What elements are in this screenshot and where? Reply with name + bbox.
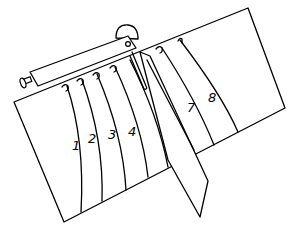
- card-outline: [14, 8, 285, 222]
- strip-label-2: 2: [88, 131, 96, 146]
- strip-label-4: 4: [128, 124, 136, 139]
- pivot-hole: [126, 42, 131, 47]
- strip-label-8: 8: [208, 90, 216, 105]
- strip-label-1: 1: [72, 138, 80, 153]
- strip-label-3: 3: [108, 127, 116, 142]
- diagram-canvas: 1 2 3 4 7 8: [0, 0, 297, 239]
- strip-label-7: 7: [187, 100, 196, 115]
- knob: [19, 77, 32, 89]
